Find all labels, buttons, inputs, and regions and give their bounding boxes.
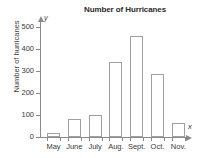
x-axis-arrow-icon xyxy=(186,135,192,141)
x-tick-mark xyxy=(68,137,69,141)
bar xyxy=(109,62,122,137)
bar xyxy=(47,133,60,137)
y-tick-mark xyxy=(36,93,41,94)
y-tick-mark xyxy=(36,137,41,138)
bar xyxy=(172,123,185,137)
bar xyxy=(130,36,143,137)
x-tick-mark xyxy=(143,137,144,141)
x-tick-mark xyxy=(172,137,173,141)
x-tick-mark xyxy=(185,137,186,141)
x-tick-mark xyxy=(130,137,131,141)
y-tick-label: 300 xyxy=(8,67,34,75)
x-tick-mark xyxy=(102,137,103,141)
x-tick-mark xyxy=(47,137,48,141)
x-tick-mark xyxy=(60,137,61,141)
y-tick-label: 100 xyxy=(8,111,34,119)
x-tick-mark xyxy=(81,137,82,141)
bar xyxy=(89,115,102,137)
y-tick-label: 0 xyxy=(8,133,34,141)
x-tick-mark xyxy=(109,137,110,141)
y-tick-mark xyxy=(36,71,41,72)
y-tick-label: 400 xyxy=(8,45,34,53)
y-tick-label: 200 xyxy=(8,89,34,97)
hurricanes-bar-chart: Number of Hurricanes Number of hurricane… xyxy=(0,0,203,158)
bar xyxy=(151,74,164,137)
bar xyxy=(68,119,81,137)
x-tick-mark xyxy=(122,137,123,141)
x-axis-variable-label: x xyxy=(188,122,192,131)
y-tick-mark xyxy=(36,49,41,50)
y-axis-arrow-icon xyxy=(38,16,44,22)
y-tick-mark xyxy=(36,115,41,116)
y-tick-mark xyxy=(36,27,41,28)
x-tick-label: Nov. xyxy=(162,142,194,151)
plot-area: y x 0100200300400500 MayJuneJulyAug.Sept… xyxy=(0,0,203,158)
y-axis-line xyxy=(40,22,41,138)
y-axis-variable-label: y xyxy=(44,13,48,22)
x-tick-mark xyxy=(164,137,165,141)
x-tick-mark xyxy=(151,137,152,141)
y-tick-label: 500 xyxy=(8,23,34,31)
x-tick-mark xyxy=(89,137,90,141)
